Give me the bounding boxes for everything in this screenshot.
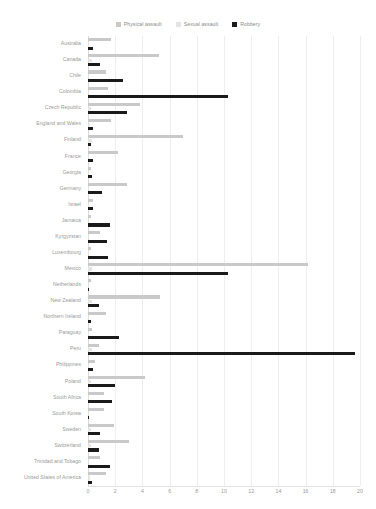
bar-sexual[interactable]	[88, 42, 89, 45]
bar-physical[interactable]	[88, 408, 104, 411]
bar-physical[interactable]	[88, 295, 160, 298]
bar-physical[interactable]	[88, 392, 104, 395]
bar-physical[interactable]	[88, 38, 111, 41]
bar-physical[interactable]	[88, 456, 100, 459]
bar-group	[88, 374, 360, 390]
bar-robbery[interactable]	[88, 240, 107, 243]
bar-sexual[interactable]	[88, 75, 89, 78]
bar-physical[interactable]	[88, 151, 118, 154]
bar-group	[88, 197, 360, 213]
legend-label: Robbery	[240, 21, 260, 27]
bar-sexual[interactable]	[88, 187, 89, 190]
bar-physical[interactable]	[88, 247, 91, 250]
bar-sexual[interactable]	[88, 476, 90, 479]
bar-sexual[interactable]	[88, 235, 89, 238]
bar-robbery[interactable]	[88, 207, 93, 210]
bar-robbery[interactable]	[88, 143, 91, 146]
bar-robbery[interactable]	[88, 256, 108, 259]
bar-physical[interactable]	[88, 344, 99, 347]
bar-sexual[interactable]	[88, 396, 89, 399]
bar-physical[interactable]	[88, 312, 106, 315]
bar-sexual[interactable]	[88, 171, 89, 174]
bar-physical[interactable]	[88, 231, 100, 234]
bar-sexual[interactable]	[88, 380, 91, 383]
bar-robbery[interactable]	[88, 223, 110, 226]
bar-group	[88, 149, 360, 165]
bar-sexual[interactable]	[88, 284, 89, 287]
bar-physical[interactable]	[88, 87, 108, 90]
bar-sexual[interactable]	[88, 444, 91, 447]
bar-physical[interactable]	[88, 167, 91, 170]
bar-robbery[interactable]	[88, 320, 91, 323]
bar-robbery[interactable]	[88, 416, 89, 419]
bar-physical[interactable]	[88, 54, 159, 57]
bar-physical[interactable]	[88, 103, 140, 106]
bar-group	[88, 422, 360, 438]
bar-robbery[interactable]	[88, 481, 92, 484]
bar-physical[interactable]	[88, 183, 127, 186]
plot-area	[88, 36, 360, 486]
bar-physical[interactable]	[88, 376, 145, 379]
legend-item-physical[interactable]: Physical assault	[116, 21, 162, 27]
bar-physical[interactable]	[88, 424, 114, 427]
bar-robbery[interactable]	[88, 400, 112, 403]
bar-robbery[interactable]	[88, 336, 119, 339]
bar-sexual[interactable]	[88, 91, 89, 94]
y-axis-label-colombia: Colombia	[59, 90, 81, 95]
legend-item-sexual[interactable]: Sexual assault	[176, 21, 218, 27]
bar-robbery[interactable]	[88, 127, 93, 130]
bar-sexual[interactable]	[88, 267, 92, 270]
bar-robbery[interactable]	[88, 448, 99, 451]
bar-robbery[interactable]	[88, 175, 92, 178]
bar-robbery[interactable]	[88, 111, 127, 114]
bar-physical[interactable]	[88, 135, 183, 138]
bar-physical[interactable]	[88, 279, 91, 282]
bar-robbery[interactable]	[88, 304, 99, 307]
bar-sexual[interactable]	[88, 139, 92, 142]
crime-victimisation-bar-chart: Physical assaultSexual assaultRobbery Au…	[0, 0, 376, 509]
bar-physical[interactable]	[88, 70, 106, 73]
x-axis-tick-10: 10	[221, 489, 227, 494]
bar-sexual[interactable]	[88, 219, 89, 222]
y-axis-label-chile: Chile	[69, 74, 81, 79]
bar-sexual[interactable]	[88, 428, 91, 431]
bar-robbery[interactable]	[88, 352, 355, 355]
bar-robbery[interactable]	[88, 79, 123, 82]
bar-sexual[interactable]	[88, 300, 92, 303]
y-axis-label-peru: Peru	[70, 347, 81, 352]
bar-physical[interactable]	[88, 263, 308, 266]
bar-physical[interactable]	[88, 360, 95, 363]
bar-group	[88, 309, 360, 325]
bar-physical[interactable]	[88, 328, 92, 331]
bar-sexual[interactable]	[88, 59, 92, 62]
bar-sexual[interactable]	[88, 412, 89, 415]
bar-robbery[interactable]	[88, 159, 93, 162]
bar-sexual[interactable]	[88, 364, 89, 367]
bar-sexual[interactable]	[88, 348, 92, 351]
bar-robbery[interactable]	[88, 47, 93, 50]
bar-physical[interactable]	[88, 199, 93, 202]
bar-sexual[interactable]	[88, 332, 89, 335]
bar-sexual[interactable]	[88, 203, 89, 206]
bar-sexual[interactable]	[88, 123, 90, 126]
bar-sexual[interactable]	[88, 316, 89, 319]
bar-robbery[interactable]	[88, 272, 228, 275]
bar-sexual[interactable]	[88, 107, 91, 110]
bar-robbery[interactable]	[88, 368, 93, 371]
bar-robbery[interactable]	[88, 63, 100, 66]
x-axis-tick-18: 18	[330, 489, 336, 494]
bar-sexual[interactable]	[88, 251, 89, 254]
bar-sexual[interactable]	[88, 155, 89, 158]
legend-item-robbery[interactable]: Robbery	[232, 21, 260, 27]
bar-robbery[interactable]	[88, 432, 100, 435]
bar-robbery[interactable]	[88, 288, 89, 291]
bar-physical[interactable]	[88, 119, 111, 122]
bar-robbery[interactable]	[88, 95, 228, 98]
bar-sexual[interactable]	[88, 460, 89, 463]
bar-robbery[interactable]	[88, 191, 102, 194]
bar-physical[interactable]	[88, 440, 129, 443]
bar-robbery[interactable]	[88, 465, 110, 468]
bar-robbery[interactable]	[88, 384, 115, 387]
bar-physical[interactable]	[88, 472, 106, 475]
bar-physical[interactable]	[88, 215, 91, 218]
